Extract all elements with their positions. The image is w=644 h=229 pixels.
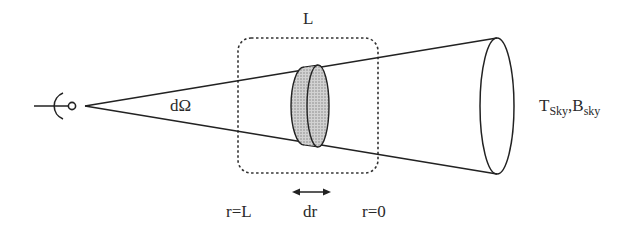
sky-T-sub: Sky — [549, 104, 568, 118]
slab-disk — [291, 65, 329, 147]
sky-B: B — [572, 96, 583, 115]
sky-B-sub: sky — [584, 104, 601, 118]
sky-T: T — [539, 96, 549, 115]
label-dr: dr — [303, 203, 317, 220]
label-box-length: L — [303, 10, 313, 27]
double-arrow-icon — [292, 189, 331, 196]
label-r-near: r=0 — [362, 203, 386, 220]
label-sky: TSky,Bsky — [539, 97, 600, 117]
antenna-icon — [34, 93, 76, 119]
label-solid-angle: dΩ — [170, 97, 191, 114]
label-r-far: r=L — [226, 203, 252, 220]
